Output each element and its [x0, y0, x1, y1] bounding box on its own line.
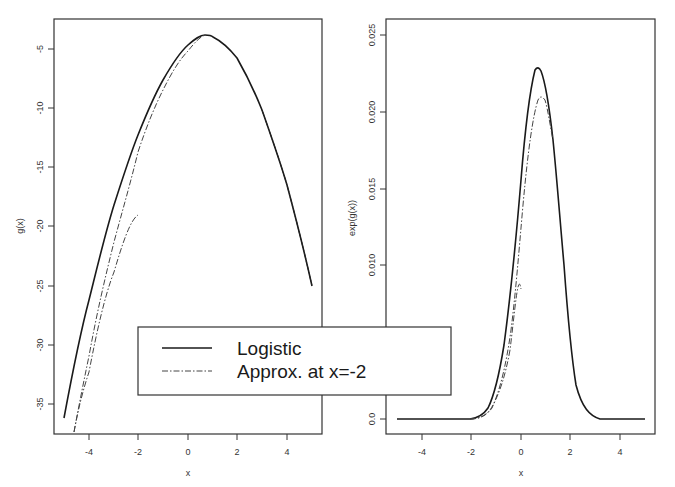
right-y-axis-label: exp(g(x)) — [347, 200, 357, 236]
y-tick-label: -20 — [35, 219, 45, 232]
right-x-axis — [422, 434, 620, 440]
y-tick-label: 0.015 — [367, 178, 377, 201]
left-x-axis — [89, 434, 287, 440]
x-tick-label: 0 — [518, 447, 523, 457]
legend-label-approx: Approx. at x=-2 — [237, 361, 366, 382]
y-tick-label: -15 — [35, 160, 45, 173]
left-y-axis — [48, 49, 54, 404]
left-plot: -5 -10 -15 -20 -25 -30 -35 g(x) -4 -2 0 … — [15, 19, 322, 478]
left-y-axis-label: g(x) — [15, 218, 25, 234]
y-tick-label: 0.0 — [367, 413, 377, 426]
y-tick-label: -10 — [35, 101, 45, 114]
x-tick-label: 4 — [617, 447, 622, 457]
y-tick-label: -25 — [35, 279, 45, 292]
x-tick-label: -4 — [418, 447, 426, 457]
left-y-tick-labels: -5 -10 -15 -20 -25 -30 -35 — [35, 45, 45, 411]
right-approx-curve-main — [470, 97, 553, 419]
legend-label-logistic: Logistic — [237, 338, 301, 359]
left-approx-curve-right — [262, 110, 312, 286]
left-x-axis-label: x — [186, 468, 191, 478]
y-tick-label: 0.010 — [367, 254, 377, 277]
y-tick-label: -30 — [35, 338, 45, 351]
figure: -5 -10 -15 -20 -25 -30 -35 g(x) -4 -2 0 … — [0, 0, 675, 487]
x-tick-label: -4 — [85, 447, 93, 457]
x-tick-label: 2 — [567, 447, 572, 457]
x-tick-label: -2 — [134, 447, 142, 457]
legend: Logistic Approx. at x=-2 — [138, 327, 451, 395]
x-tick-label: 4 — [284, 447, 289, 457]
right-plot: 0.0 0.005 0.010 0.015 0.020 0.025 exp(g(… — [347, 19, 655, 478]
left-x-tick-labels: -4 -2 0 2 4 — [85, 447, 290, 457]
y-tick-label: 0.020 — [367, 101, 377, 124]
right-x-tick-labels: -4 -2 0 2 4 — [418, 447, 623, 457]
y-tick-label: -35 — [35, 397, 45, 410]
x-tick-label: 0 — [185, 447, 190, 457]
y-tick-label: 0.025 — [367, 24, 377, 47]
right-x-axis-label: x — [519, 468, 524, 478]
x-tick-label: -2 — [467, 447, 475, 457]
x-tick-label: 2 — [234, 447, 239, 457]
y-tick-label: -5 — [35, 45, 45, 53]
